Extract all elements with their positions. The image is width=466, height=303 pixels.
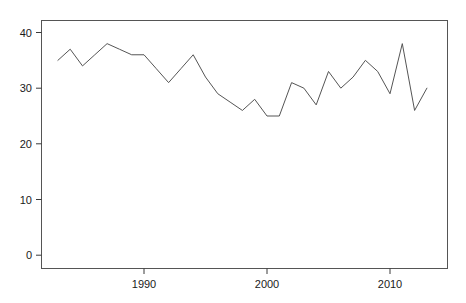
data-series-line xyxy=(58,44,427,116)
y-tick-label-10: 10 xyxy=(8,194,32,205)
y-tick-label-30: 30 xyxy=(8,83,32,94)
chart-figure: 40 30 20 10 0 1990 2000 2010 xyxy=(0,0,466,303)
x-tick-label-1990: 1990 xyxy=(132,279,156,290)
x-tick-label-2010: 2010 xyxy=(378,279,402,290)
x-axis-ticks xyxy=(144,269,390,275)
plot-border xyxy=(42,21,448,269)
y-tick-label-20: 20 xyxy=(8,138,32,149)
y-tick-label-0: 0 xyxy=(8,250,32,261)
x-tick-label-2000: 2000 xyxy=(255,279,279,290)
y-tick-label-40: 40 xyxy=(8,27,32,38)
y-axis-ticks xyxy=(36,33,42,256)
line-chart-canvas xyxy=(0,0,466,303)
